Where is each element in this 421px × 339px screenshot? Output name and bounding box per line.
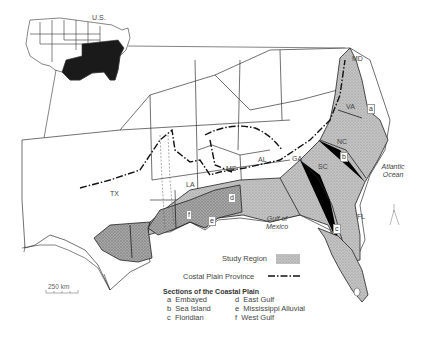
state-label-md: MD	[352, 55, 363, 62]
state-label-va: VA	[346, 103, 355, 110]
legend-section-a: a Embayed	[167, 295, 235, 304]
section-marker-d: d	[228, 193, 236, 203]
section-marker-e: e	[208, 216, 216, 226]
section-marker-b: b	[340, 152, 348, 162]
inset-label-us: U.S.	[92, 14, 106, 21]
legend-section-f: f West Gulf	[235, 313, 325, 322]
legend-sections-title: Sections of the Coastal Plain	[163, 288, 325, 295]
legend-section-c: c Floridian	[167, 313, 235, 322]
state-label-fl: FL	[357, 213, 365, 220]
atlantic-ocean-label: Atlantic Ocean	[373, 163, 413, 179]
legend-sections: Sections of the Coastal Plain a Embayed …	[163, 288, 325, 322]
section-marker-c: c	[333, 224, 341, 234]
legend-section-e: e Mississippi Alluvial	[235, 304, 325, 313]
legend-province-label: Costal Plain Province	[183, 272, 254, 281]
state-label-la: LA	[186, 181, 195, 188]
gulf-of-mexico-label: Gulf of Mexico	[260, 215, 294, 231]
state-label-ms: MS	[226, 165, 237, 172]
section-marker-f: f	[186, 210, 192, 220]
state-label-sc: SC	[318, 163, 328, 170]
state-label-ga: GA	[292, 155, 302, 162]
state-label-al: AL	[258, 156, 267, 163]
state-label-nc: NC	[337, 138, 347, 145]
legend-study-region-label: Study Region	[222, 254, 267, 263]
scale-bar-label: 250 km	[48, 283, 69, 290]
scale-bar	[46, 290, 78, 293]
study-region-swatch	[276, 254, 300, 264]
north-arrow-icon	[390, 204, 399, 225]
legend-section-d: d East Gulf	[235, 295, 325, 304]
state-label-tx: TX	[110, 190, 119, 197]
legend-section-b: b Sea Island	[167, 304, 235, 313]
section-marker-a: a	[367, 104, 375, 114]
inset-us-map	[26, 18, 130, 80]
